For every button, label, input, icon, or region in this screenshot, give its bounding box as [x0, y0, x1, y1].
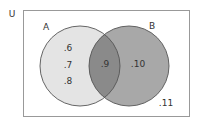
venn-diagram: U A B .6 .7 .8 .9 .10 .11	[0, 0, 198, 126]
set-b-element: .10	[131, 59, 146, 69]
set-a-element: .6	[64, 43, 73, 53]
universe-label: U	[9, 9, 16, 19]
universe-outside-element: .11	[159, 98, 173, 108]
set-a-element: .8	[64, 76, 73, 86]
intersection-element: .9	[101, 59, 110, 69]
set-a-label: A	[43, 22, 50, 32]
set-b-label: B	[149, 21, 155, 31]
set-a-element: .7	[64, 60, 73, 70]
